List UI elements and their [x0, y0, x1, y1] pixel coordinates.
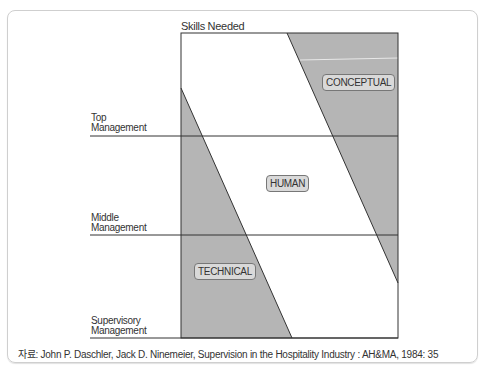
diagram-title: Skills Needed: [181, 21, 244, 31]
level-label-supervisory: Supervisory Management: [91, 316, 146, 336]
level-label-top: Top Management: [91, 113, 146, 133]
conceptual-tag: CONCEPTUAL: [322, 74, 395, 91]
technical-tag: TECHNICAL: [194, 263, 256, 280]
level-label-middle: Middle Management: [91, 213, 146, 233]
skills-diagram: [0, 0, 490, 375]
source-caption: 자료: John P. Daschler, Jack D. Ninemeier,…: [18, 346, 438, 361]
human-tag: HUMAN: [266, 175, 309, 192]
